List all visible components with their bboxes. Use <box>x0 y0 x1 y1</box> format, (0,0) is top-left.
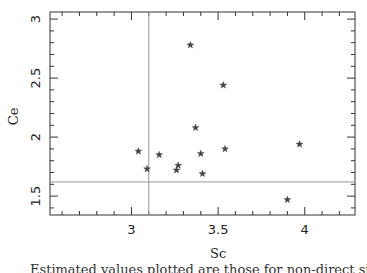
y-tick-label: 2 <box>28 133 43 141</box>
star-marker <box>199 170 206 177</box>
x-axis-title: Sc <box>210 246 226 261</box>
star-marker <box>220 82 227 89</box>
y-tick-label: 2.5 <box>28 68 43 89</box>
x-tick-label: 4 <box>301 222 309 237</box>
star-marker <box>222 145 229 152</box>
star-marker <box>156 151 163 158</box>
y-tick-label: 3 <box>28 15 43 23</box>
y-tick-label: 1.5 <box>28 186 43 207</box>
x-tick-label: 3.5 <box>208 222 229 237</box>
star-marker <box>284 196 291 203</box>
figure-caption: Estimated values plotted are those for n… <box>30 262 367 273</box>
x-tick-label: 3 <box>127 222 135 237</box>
star-marker <box>144 165 151 172</box>
star-marker <box>192 124 199 131</box>
star-marker <box>197 150 204 157</box>
star-marker <box>175 162 182 169</box>
star-marker <box>296 141 303 148</box>
y-axis-title: Ce <box>6 107 21 125</box>
star-marker <box>135 148 142 155</box>
plot-frame <box>50 12 355 215</box>
star-marker <box>187 41 194 48</box>
scatter-chart: 33.541.522.53ScCe <box>0 0 367 273</box>
